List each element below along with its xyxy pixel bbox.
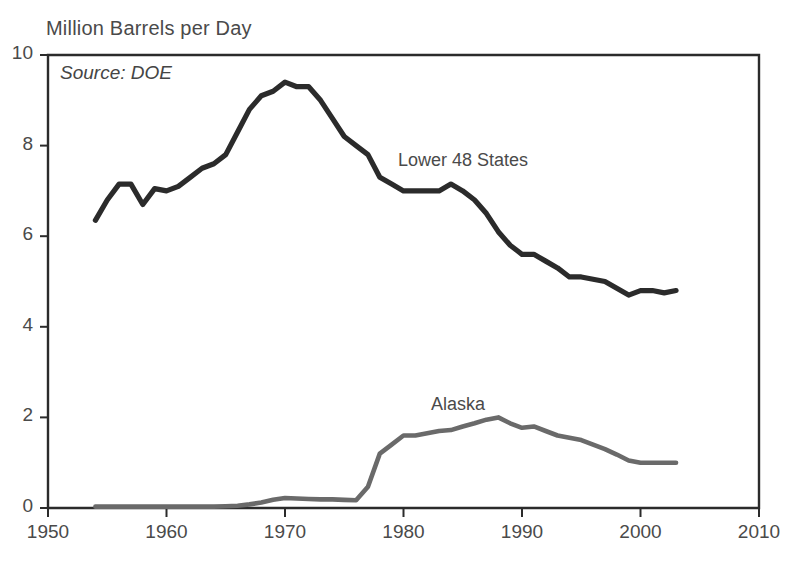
series-line-lower-48-states	[95, 82, 676, 295]
tick-marks	[40, 55, 759, 517]
plot-border	[48, 55, 759, 508]
axis-frame	[48, 55, 759, 508]
x-tick-label-1980: 1980	[369, 521, 439, 543]
x-tick-label-1960: 1960	[132, 521, 202, 543]
series-label-alaska: Alaska	[431, 394, 485, 415]
y-tick-label-0: 0	[0, 495, 33, 517]
x-tick-label-1990: 1990	[487, 521, 557, 543]
y-tick-label-10: 10	[0, 42, 33, 64]
y-tick-label-6: 6	[0, 223, 33, 245]
plot-canvas	[0, 0, 796, 565]
y-tick-label-8: 8	[0, 133, 33, 155]
y-tick-label-2: 2	[0, 404, 33, 426]
series-label-lower-48-states: Lower 48 States	[398, 150, 528, 171]
x-tick-label-2000: 2000	[606, 521, 676, 543]
data-series	[95, 82, 676, 506]
x-tick-label-2010: 2010	[724, 521, 794, 543]
x-tick-label-1970: 1970	[250, 521, 320, 543]
x-tick-label-1950: 1950	[13, 521, 83, 543]
y-tick-label-4: 4	[0, 314, 33, 336]
series-line-alaska	[95, 417, 676, 506]
chart-figure: Million Barrels per Day Source: DOE 0246…	[0, 0, 796, 565]
